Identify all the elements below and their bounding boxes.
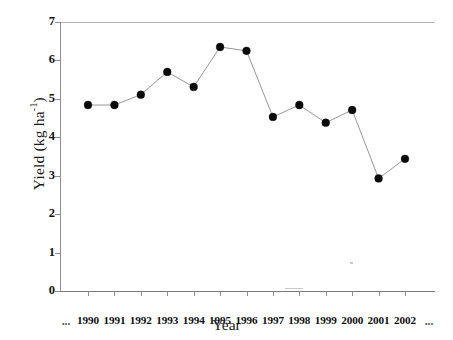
y-axis-title-superscript: -1 — [28, 102, 39, 111]
x-tick-label-1996: 1996 — [236, 314, 258, 326]
series-yield — [60, 22, 435, 292]
data-point-1994 — [190, 83, 198, 91]
y-tick-label: 1 — [49, 245, 55, 260]
data-point-2001 — [375, 175, 383, 183]
scan-artifact — [350, 262, 353, 264]
x-tick-label-1994: 1994 — [183, 314, 205, 326]
scan-artifact — [285, 288, 303, 289]
data-point-1999 — [322, 119, 330, 127]
x-tick-label-1997: 1997 — [262, 314, 284, 326]
series-polyline — [88, 47, 405, 178]
x-tick-label-1992: 1992 — [130, 314, 152, 326]
y-axis-title-close: ) — [30, 97, 47, 102]
x-tick-label-1991: 1991 — [103, 314, 125, 326]
data-point-1996 — [243, 47, 251, 55]
data-point-1990 — [84, 101, 92, 109]
x-tick-label-2000: 2000 — [341, 314, 363, 326]
y-tick-label: 4 — [49, 129, 55, 144]
x-tick-label-1990: 1990 — [77, 314, 99, 326]
x-axis-ellipsis-left: ... — [62, 315, 71, 327]
y-tick-label: 0 — [49, 283, 55, 298]
plot-area: 01234567 1990199119921993199419951996199… — [60, 22, 435, 291]
data-point-1991 — [111, 101, 119, 109]
y-axis-title-text: Yield (kg ha — [30, 111, 47, 190]
x-tick-label-2002: 2002 — [394, 314, 416, 326]
x-tick-label-1995: 1995 — [209, 314, 231, 326]
y-tick-label: 6 — [49, 52, 55, 67]
y-tick-label: 2 — [49, 206, 55, 221]
y-tick-label: 3 — [49, 168, 55, 183]
y-tick-label: 5 — [49, 91, 55, 106]
x-tick-label-1998: 1998 — [288, 314, 310, 326]
data-point-1993 — [163, 68, 171, 76]
x-tick-label-1993: 1993 — [156, 314, 178, 326]
data-point-1998 — [295, 101, 303, 109]
data-point-1995 — [216, 43, 224, 51]
x-tick-label-1999: 1999 — [315, 314, 337, 326]
x-axis-ellipsis-right: ... — [425, 315, 434, 327]
data-point-2000 — [348, 106, 356, 114]
data-point-1997 — [269, 113, 277, 121]
data-point-1992 — [137, 91, 145, 99]
data-point-2002 — [401, 155, 409, 163]
x-tick-label-2001: 2001 — [368, 314, 390, 326]
yield-by-year-line-chart: Yield (kg ha-1) Year 01234567 1990199119… — [0, 0, 453, 340]
y-axis-title: Yield (kg ha-1) — [28, 34, 47, 254]
series-markers — [84, 43, 409, 182]
y-tick-label: 7 — [49, 14, 55, 29]
